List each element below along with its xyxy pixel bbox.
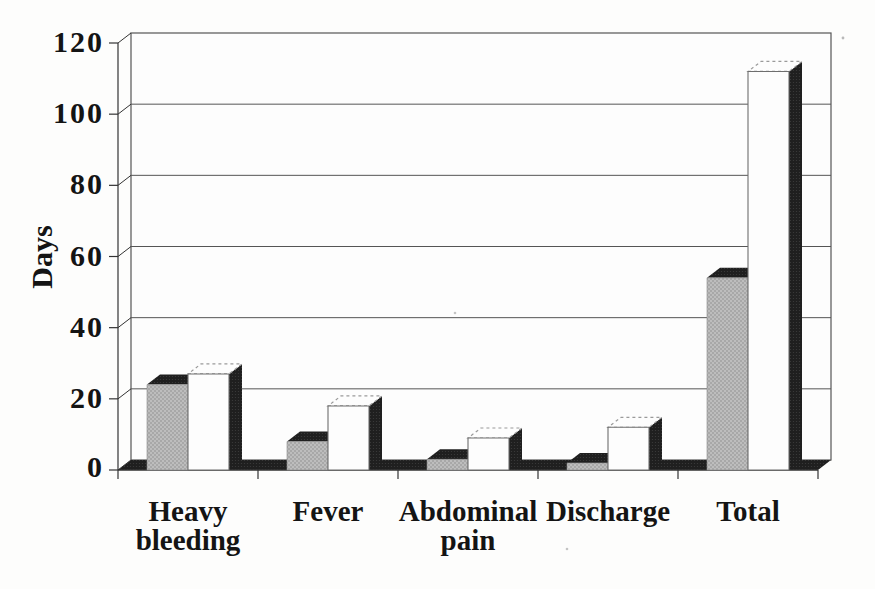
bar-front-face [287, 442, 328, 470]
x-category-label-abdominal-pain: Abdominalpain [399, 495, 538, 556]
y-axis-title: Days [25, 225, 58, 288]
y-tick-connector-80 [118, 175, 131, 185]
x-category-label-fever: Fever [293, 495, 364, 527]
bar-chart-canvas: 020406080100120HeavybleedingFeverAbdomin… [0, 0, 875, 589]
bar-front-face [427, 459, 468, 470]
bar-front-face [748, 71, 789, 470]
bar-series-2-total [748, 61, 802, 470]
bar-side-face [229, 364, 242, 470]
bar-series-2-discharge [608, 417, 662, 470]
bar-series-2-abdominal-pain [468, 428, 522, 470]
y-tick-label-40: 40 [70, 310, 104, 343]
y-tick-connector-120 [118, 33, 131, 43]
bar-group-heavy-bleeding [147, 364, 242, 470]
bar-side-face [789, 61, 802, 470]
x-category-label-heavy-bleeding: Heavybleeding [136, 495, 241, 556]
y-tick-connector-40 [118, 318, 131, 328]
chart-page: 020406080100120HeavybleedingFeverAbdomin… [0, 0, 875, 589]
y-tick-label-0: 0 [87, 450, 104, 483]
bar-front-face [707, 278, 748, 470]
y-tick-label-60: 60 [70, 239, 104, 272]
bar-series-2-fever [328, 396, 382, 470]
bar-series-2-heavy-bleeding [188, 364, 242, 470]
scan-speckle [454, 312, 457, 315]
x-category-label-total: Total [716, 495, 779, 527]
category-label-line: Heavy [149, 495, 228, 527]
category-label-line: Total [716, 495, 779, 527]
category-label-line: Abdominal [399, 495, 538, 527]
category-label-line: pain [441, 524, 496, 556]
bar-front-face [188, 374, 229, 470]
y-tick-label-120: 120 [53, 25, 104, 58]
y-tick-connector-20 [118, 389, 131, 399]
y-tick-label-20: 20 [70, 381, 104, 414]
y-tick-label-80: 80 [70, 167, 104, 200]
bar-side-face [369, 396, 382, 470]
bar-front-face [328, 406, 369, 470]
y-tick-label-100: 100 [53, 96, 104, 129]
scan-speckle [566, 548, 569, 551]
bar-chart: 020406080100120HeavybleedingFeverAbdomin… [0, 0, 875, 589]
x-category-label-discharge: Discharge [546, 495, 670, 527]
y-tick-connector-100 [118, 104, 131, 114]
scan-speckle [842, 37, 845, 40]
y-tick-connector-60 [118, 247, 131, 257]
category-label-line: Fever [293, 495, 364, 527]
bar-front-face [468, 438, 509, 470]
bar-front-face [608, 427, 649, 470]
category-label-line: bleeding [136, 524, 241, 556]
bar-front-face [567, 463, 608, 470]
bar-front-face [147, 385, 188, 470]
category-label-line: Discharge [546, 495, 670, 527]
